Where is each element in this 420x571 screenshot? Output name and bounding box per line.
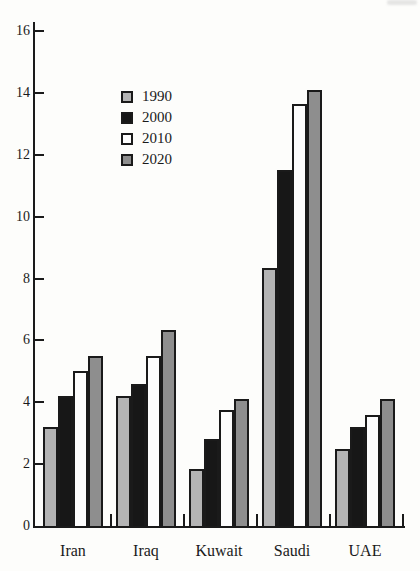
y-axis-tick	[35, 30, 44, 32]
bar-iran-2010	[73, 371, 88, 528]
legend-swatch-2010	[121, 133, 133, 145]
y-axis-tick	[35, 339, 44, 341]
bar-uae-2000	[350, 427, 365, 528]
y-axis-tick-label: 16	[0, 22, 30, 40]
bar-saudi-1990	[262, 268, 277, 528]
legend-item-2010: 2010	[121, 128, 172, 149]
y-axis-tick-label: 0	[0, 517, 30, 535]
x-axis-group-tick	[110, 514, 112, 527]
y-axis-tick-label: 6	[0, 331, 30, 349]
bar-iran-2020	[88, 356, 103, 528]
legend-item-2000: 2000	[121, 107, 172, 128]
y-axis-tick-label: 4	[0, 393, 30, 411]
legend-item-1990: 1990	[121, 86, 172, 107]
bar-iraq-1990	[116, 396, 131, 528]
bar-saudi-2010	[292, 104, 307, 528]
bar-kuwait-1990	[189, 469, 204, 528]
bar-iraq-2000	[131, 384, 146, 528]
y-axis-line	[33, 22, 35, 528]
legend-item-label: 2000	[142, 110, 172, 125]
legend-swatch-1990	[121, 91, 133, 103]
bar-iran-1990	[43, 427, 58, 528]
bar-uae-2020	[380, 399, 395, 528]
y-axis-tick-label: 2	[0, 455, 30, 473]
y-axis-tick	[35, 278, 44, 280]
bar-iran-2000	[58, 396, 73, 528]
y-axis-tick-label: 10	[0, 208, 30, 226]
y-axis-tick	[35, 216, 44, 218]
y-axis-tick-label: 8	[0, 270, 30, 288]
bar-uae-1990	[335, 449, 350, 528]
x-axis-group-tick	[329, 514, 331, 527]
bar-uae-2010	[365, 415, 380, 528]
x-axis-group-tick	[402, 514, 404, 527]
bar-kuwait-2010	[219, 410, 234, 528]
y-axis-tick-label: 12	[0, 146, 30, 164]
y-axis-tick	[35, 401, 44, 403]
bar-kuwait-2000	[204, 439, 219, 528]
x-axis-group-tick	[256, 514, 258, 527]
legend: 1990200020102020	[121, 86, 172, 170]
bar-kuwait-2020	[234, 399, 249, 528]
page-header-remnant	[387, 0, 417, 5]
y-axis-tick-label: 14	[0, 84, 30, 102]
legend-swatch-2020	[121, 154, 133, 166]
bar-saudi-2000	[277, 170, 292, 528]
legend-item-label: 2020	[142, 152, 172, 167]
legend-swatch-2000	[121, 112, 133, 124]
figure-page: 0246810121416 IranIraqKuwaitSaudiUAE 199…	[0, 0, 420, 571]
x-axis-group-tick	[183, 514, 185, 527]
y-axis-tick	[35, 92, 44, 94]
legend-item-label: 1990	[142, 89, 172, 104]
x-axis-category-label-uae: UAE	[320, 541, 410, 561]
bar-iraq-2010	[146, 356, 161, 528]
bar-iraq-2020	[161, 330, 176, 528]
bar-saudi-2020	[307, 90, 322, 528]
y-axis-tick	[35, 154, 44, 156]
legend-item-label: 2010	[142, 131, 172, 146]
legend-item-2020: 2020	[121, 149, 172, 170]
